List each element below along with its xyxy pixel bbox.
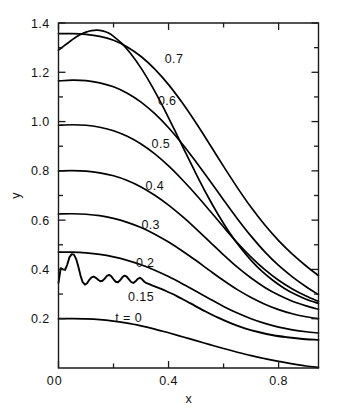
- curve-label-t-0-15: 0.15: [128, 290, 154, 304]
- curve-label-t-0-7: 0.7: [165, 52, 184, 66]
- x-tick-label: 0.8: [269, 374, 288, 388]
- curve-t-0-2: [59, 252, 319, 333]
- y-tick-label: 1.4: [31, 17, 50, 31]
- y-axis-title: y: [9, 192, 23, 199]
- curve-t-0-4: [59, 171, 319, 310]
- curve-label-t-0-3: 0.3: [141, 218, 160, 232]
- curve-label-t-0: t = 0: [115, 311, 142, 325]
- axis-frame: [59, 23, 319, 368]
- curve-label-t-0-4: 0.4: [146, 179, 165, 193]
- x-tick-label: 0.4: [159, 374, 178, 388]
- y-tick-label: 0.8: [31, 164, 50, 178]
- curve-label-t-0-2: 0.2: [136, 256, 155, 270]
- y-tick-label: 0.4: [31, 263, 50, 277]
- y-tick-label: 0.2: [31, 312, 50, 326]
- figure-container: 00.40.80.20.40.60.81.01.21.40 t = 00.150…: [0, 0, 337, 420]
- curve-t-0-7: [59, 30, 319, 303]
- x-tick-label: 0: [55, 374, 62, 388]
- origin-tick-label: 0: [47, 374, 54, 388]
- y-tick-label: 0.6: [31, 214, 50, 228]
- curve-upper-envelope: [59, 34, 319, 276]
- curves-group: [59, 30, 319, 367]
- plot-frame: [59, 23, 319, 368]
- curve-t-0: [59, 319, 319, 368]
- x-axis-title: x: [185, 392, 192, 406]
- axis-tick-labels: 00.40.80.20.40.60.81.01.21.40: [31, 17, 288, 389]
- y-tick-label: 1.0: [31, 115, 50, 129]
- y-tick-label: 1.2: [31, 66, 50, 80]
- curve-label-t-0-5: 0.5: [152, 137, 171, 151]
- curve-label-t-0-6: 0.6: [158, 94, 177, 108]
- axis-ticks: [59, 23, 319, 368]
- line-chart: 00.40.80.20.40.60.81.01.21.40 t = 00.150…: [0, 0, 337, 420]
